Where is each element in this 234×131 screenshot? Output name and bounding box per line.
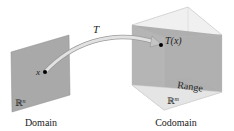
transformation-diagram: ℝn T x T(x) Range ℝm Domain Codomain (0, 0, 234, 131)
domain-point (43, 70, 47, 74)
domain-point-label: x (35, 67, 40, 77)
codomain-point (159, 43, 163, 47)
codomain-caption: Codomain (155, 117, 197, 128)
codomain-point-label: T(x) (165, 35, 182, 47)
mapping-label: T (93, 23, 100, 35)
domain-caption: Domain (25, 117, 57, 128)
